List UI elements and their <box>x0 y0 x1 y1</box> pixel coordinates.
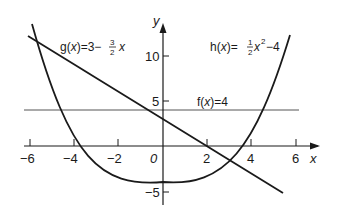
y-tick-label: 5 <box>152 94 159 109</box>
x-axis-label: x <box>309 151 317 166</box>
y-tick-label: −5 <box>145 185 160 200</box>
annotation-h: h(x)= 1 2 x 2 −4 <box>210 37 280 57</box>
origin-label: 0 <box>150 151 158 166</box>
y-axis-arrow-icon <box>160 23 167 33</box>
x-axis-arrow-icon <box>310 143 320 150</box>
svg-text:x: x <box>118 40 126 54</box>
y-axis <box>160 23 170 205</box>
svg-text:g(x)=3−: g(x)=3− <box>60 40 101 54</box>
svg-text:3: 3 <box>110 38 115 47</box>
y-tick-label: 10 <box>145 49 159 64</box>
svg-text:2: 2 <box>110 48 115 57</box>
svg-text:x: x <box>253 40 261 54</box>
x-tick-labels: −6 −4 −2 2 4 6 0 x <box>20 151 317 166</box>
svg-text:−4: −4 <box>266 40 280 54</box>
x-tick-label: −4 <box>63 151 78 166</box>
x-tick-label: −2 <box>107 151 122 166</box>
svg-text:2: 2 <box>248 48 253 57</box>
svg-text:h(x)=: h(x)= <box>210 40 238 54</box>
x-tick-label: 6 <box>292 151 299 166</box>
annotation-f: f(x)=4 <box>197 95 228 109</box>
x-tick-label: −6 <box>20 151 35 166</box>
annotation-g: g(x)=3− 3 2 x <box>60 38 126 57</box>
x-tick-label: 4 <box>247 151 254 166</box>
y-tick-labels: 10 5 −5 y <box>145 13 161 200</box>
function-graph: −6 −4 −2 2 4 6 0 x 10 5 −5 y g(x)=3− 3 2… <box>0 0 337 216</box>
x-axis <box>24 139 320 150</box>
svg-text:1: 1 <box>248 38 253 47</box>
y-axis-label: y <box>152 13 161 28</box>
svg-text:f(x)=4: f(x)=4 <box>197 95 228 109</box>
x-tick-label: 2 <box>203 151 210 166</box>
